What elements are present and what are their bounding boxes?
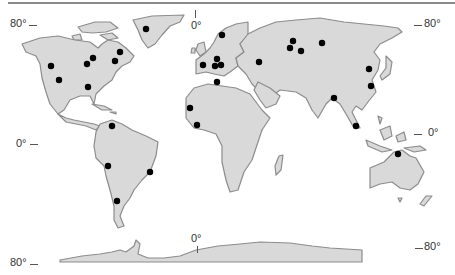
- lat-label-left-top: 80°: [10, 17, 27, 29]
- location-marker-africa: [214, 79, 220, 85]
- lat-label-right-top: 80°: [424, 17, 441, 29]
- lat-label-right-bottom: 80°: [424, 240, 441, 252]
- location-marker-europe: [214, 56, 220, 62]
- landmass-british-isles: [191, 42, 206, 56]
- landmass-africa: [186, 84, 270, 192]
- location-marker-north-america: [56, 77, 62, 83]
- location-marker-north-america: [84, 61, 90, 67]
- location-marker-south-america: [114, 198, 120, 204]
- lat-tick-left-bottom: [30, 264, 38, 265]
- location-marker-north-america: [90, 55, 96, 61]
- location-marker-asia: [368, 83, 374, 89]
- meridian-label-bottom: 0°: [191, 232, 202, 244]
- meridian-tick-top: [195, 10, 196, 18]
- location-marker-greenland: [143, 26, 149, 32]
- location-marker-asia: [290, 38, 296, 44]
- lat-tick-left-mid: [30, 144, 38, 145]
- location-marker-south-america: [147, 169, 153, 175]
- location-marker-south-america: [105, 163, 111, 169]
- location-marker-north-america: [117, 49, 123, 55]
- lat-tick-left-top: [29, 25, 37, 26]
- location-marker-asia: [287, 45, 293, 51]
- landmass-greenland: [133, 15, 184, 48]
- location-marker-asia: [256, 59, 262, 65]
- location-marker-asia: [319, 40, 325, 46]
- landmass-madagascar: [275, 155, 283, 175]
- location-marker-asia: [331, 95, 337, 101]
- lat-tick-right-mid: [414, 134, 422, 135]
- lat-label-left-bottom: 80°: [10, 256, 27, 268]
- meridian-label-top: 0°: [191, 19, 202, 31]
- location-marker-europe: [200, 62, 206, 68]
- location-marker-europe: [218, 62, 224, 68]
- location-marker-north-america: [85, 84, 91, 90]
- landmass-antarctica: [60, 240, 362, 262]
- location-marker-asia: [353, 123, 359, 129]
- location-marker-north-america: [112, 58, 118, 64]
- landmass-caribbean: [92, 104, 116, 114]
- location-marker-africa: [194, 122, 200, 128]
- lat-label-left-mid: 0°: [16, 137, 27, 149]
- landmass-central-america: [58, 114, 100, 130]
- lat-label-right-mid: 0°: [428, 126, 439, 138]
- location-marker-south-america: [109, 123, 115, 129]
- location-marker-europe: [219, 32, 225, 38]
- lat-tick-right-top: [414, 25, 422, 26]
- world-map: [0, 0, 455, 275]
- location-marker-asia: [298, 48, 304, 54]
- location-marker-europe: [212, 63, 218, 69]
- landmass-japan: [380, 56, 392, 80]
- location-marker-asia: [366, 66, 372, 72]
- location-marker-africa: [187, 105, 193, 111]
- location-marker-australia: [395, 151, 401, 157]
- meridian-tick-bottom: [197, 246, 198, 253]
- lat-tick-right-bottom: [415, 248, 423, 249]
- location-marker-north-america: [48, 63, 54, 69]
- landmass-new-zealand: [398, 196, 432, 206]
- landmass-north-america: [22, 36, 134, 114]
- landmass-arctic-islands: [72, 22, 118, 40]
